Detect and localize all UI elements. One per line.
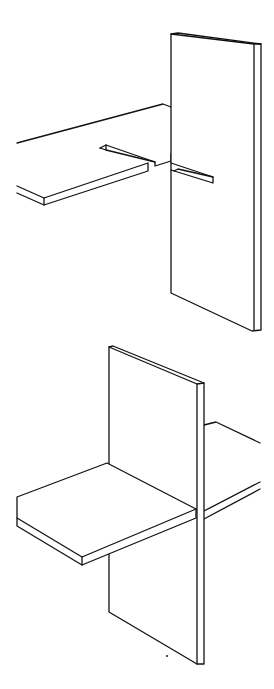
vertical-board-top xyxy=(171,33,261,331)
horizontal-board-top xyxy=(17,104,171,205)
figure-assembled-view xyxy=(17,346,260,664)
horizontal-board-back xyxy=(204,422,260,519)
speck xyxy=(166,655,168,657)
diagram-canvas xyxy=(0,0,274,689)
figure-exploded-view xyxy=(17,33,261,331)
